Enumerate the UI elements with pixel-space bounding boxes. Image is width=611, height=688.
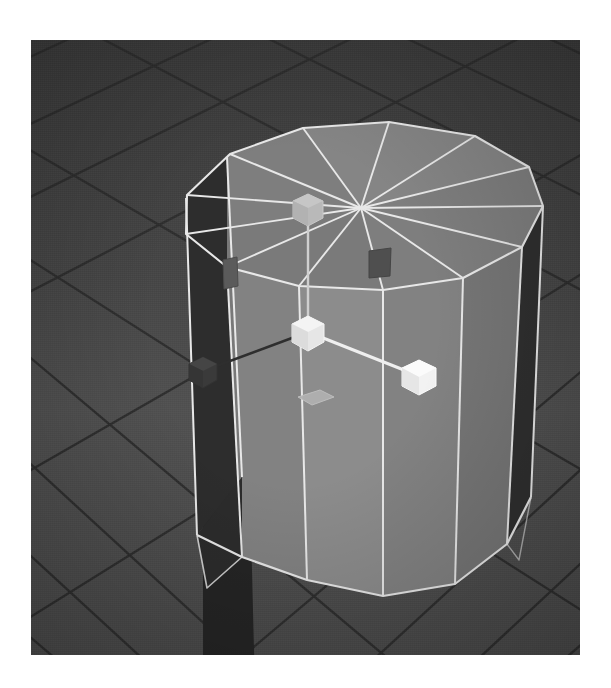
screenshot-root: 3D Viewport Scale cylinder 3D viewport s…: [0, 0, 611, 688]
face-marker-right[interactable]: [369, 248, 391, 278]
cylinder-mesh[interactable]: [186, 122, 543, 655]
face-marker-left[interactable]: [223, 257, 238, 289]
scene-geometry-svg: [31, 40, 580, 655]
perspective-3d-viewport[interactable]: [31, 40, 580, 655]
cylinder-face-centerright: [383, 278, 463, 596]
